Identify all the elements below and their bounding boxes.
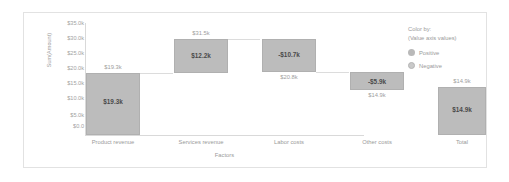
x-axis-line bbox=[85, 135, 364, 136]
bar-total-label: $20.8k bbox=[259, 74, 319, 80]
waterfall-connector bbox=[316, 72, 349, 73]
x-axis-label-total: Total bbox=[427, 139, 497, 145]
x-axis-title: Factors bbox=[85, 152, 364, 158]
bar-total-label: $19.3k bbox=[83, 64, 143, 70]
legend-item-positive[interactable]: Positive bbox=[408, 49, 484, 56]
waterfall-connector bbox=[140, 73, 173, 74]
bar-total-label: $31.5k bbox=[171, 30, 231, 36]
bar-total-label: $14.9k bbox=[432, 78, 492, 84]
bar-labor-costs[interactable]: -$10.7k bbox=[262, 39, 316, 72]
bar-value-label: $14.9k bbox=[439, 106, 485, 113]
x-axis-label-labor-costs: Labor costs bbox=[254, 139, 324, 145]
y-tick-label: $20.0k bbox=[38, 65, 84, 71]
x-axis-label-other-costs: Other costs bbox=[342, 139, 412, 145]
legend-label-negative: Negative bbox=[419, 63, 442, 69]
y-tick-label: $25.0k bbox=[38, 50, 84, 56]
legend-swatch-positive-icon bbox=[408, 49, 415, 56]
bar-other-costs[interactable]: -$5.9k bbox=[350, 72, 404, 90]
y-tick-label: $30.0k bbox=[38, 35, 84, 41]
y-tick-label: $15.0k bbox=[38, 80, 84, 86]
legend-subtitle: (Value axis values) bbox=[408, 34, 484, 43]
bar-value-label: -$10.7k bbox=[263, 51, 315, 58]
waterfall-chart-card: Sum(Amount) $35.0k $30.0k $25.0k $20.0k … bbox=[23, 12, 487, 168]
legend-item-negative[interactable]: Negative bbox=[408, 62, 484, 69]
bar-services-revenue[interactable]: $12.2k bbox=[174, 39, 228, 73]
legend-title: Color by: bbox=[408, 25, 484, 34]
bar-value-label: $19.3k bbox=[87, 98, 139, 105]
y-tick-label: $10.0k bbox=[38, 95, 84, 101]
legend-label-positive: Positive bbox=[419, 50, 439, 56]
y-tick-label: $0.0 bbox=[38, 123, 84, 129]
bar-product-revenue[interactable]: $19.3k bbox=[86, 73, 140, 135]
waterfall-connector bbox=[228, 39, 260, 40]
bar-value-label: -$5.9k bbox=[351, 78, 403, 85]
legend-panel: Color by: (Value axis values) Positive N… bbox=[408, 25, 484, 69]
y-tick-label: $5.0k bbox=[38, 112, 84, 118]
legend-swatch-negative-icon bbox=[408, 62, 415, 69]
bar-total-label: $14.9k bbox=[347, 92, 407, 98]
bar-value-label: $12.2k bbox=[175, 52, 227, 59]
bar-total[interactable]: $14.9k bbox=[438, 87, 486, 135]
y-tick-label: $35.0k bbox=[38, 20, 84, 26]
x-axis-label-product-revenue: Product revenue bbox=[78, 139, 148, 145]
y-axis-tick-labels: $35.0k $30.0k $25.0k $20.0k $15.0k $10.0… bbox=[32, 13, 84, 146]
x-axis-label-services-revenue: Services revenue bbox=[166, 139, 236, 145]
